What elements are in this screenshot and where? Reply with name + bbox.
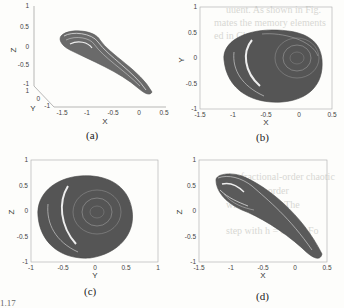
svg-text:0.5: 0.5 [20, 23, 29, 30]
svg-text:0.5: 0.5 [322, 264, 331, 271]
svg-text:-1.5: -1.5 [56, 109, 68, 116]
panel-caption-d: (d) [256, 290, 269, 302]
svg-text:0: 0 [36, 95, 40, 102]
svg-text:-1.5: -1.5 [194, 111, 206, 118]
svg-text:0: 0 [93, 264, 97, 271]
svg-text:Z: Z [175, 209, 184, 214]
svg-text:-1.5: -1.5 [193, 264, 205, 271]
svg-text:0: 0 [293, 264, 297, 271]
svg-text:1: 1 [25, 87, 29, 94]
panel-caption-c: (c) [84, 285, 96, 297]
svg-text:0.5: 0.5 [188, 29, 197, 36]
svg-text:-0.5: -0.5 [107, 109, 119, 116]
svg-text:0: 0 [192, 207, 196, 214]
svg-text:-0.5: -0.5 [185, 233, 197, 240]
panel-caption-b: (b) [256, 131, 269, 143]
figure-panel-c: 1 0.5 0 -0.5 -1 -1 -0.5 0 0.5 1 Z Y (c) [0, 154, 172, 308]
svg-text:1: 1 [25, 2, 29, 9]
svg-text:-1: -1 [23, 80, 29, 87]
svg-text:Z: Z [9, 47, 18, 52]
svg-text:-0.5: -0.5 [260, 111, 272, 118]
svg-text:-1: -1 [44, 102, 50, 109]
svg-text:Y: Y [92, 271, 98, 280]
svg-text:-0.5: -0.5 [186, 80, 198, 87]
figure-panel-b: 1 0.5 0 -0.5 -1 -1.5 -1 -0.5 0 0.5 Y X (… [172, 0, 344, 154]
figure-number-fragment: 1.17 [0, 298, 16, 308]
panel-caption-a: (a) [86, 129, 98, 141]
svg-text:-1: -1 [228, 264, 234, 271]
svg-text:1: 1 [192, 156, 196, 163]
svg-text:0.5: 0.5 [19, 182, 28, 189]
svg-text:Z: Z [7, 209, 16, 214]
svg-text:Y: Y [177, 57, 186, 63]
svg-text:-1: -1 [230, 111, 236, 118]
attractor-xz-plot: 1 0.5 0 -0.5 -1 -1.5 -1 -0.5 0 0.5 Z X [172, 154, 344, 308]
svg-text:0: 0 [297, 111, 301, 118]
svg-text:0: 0 [137, 109, 141, 116]
svg-text:0: 0 [193, 54, 197, 61]
svg-text:0.5: 0.5 [159, 109, 168, 116]
svg-text:-1: -1 [84, 109, 90, 116]
svg-text:X: X [263, 118, 269, 127]
svg-text:0: 0 [25, 43, 29, 50]
figure-panel-d: 1 0.5 0 -0.5 -1 -1.5 -1 -0.5 0 0.5 Z X (… [172, 154, 344, 308]
svg-text:0.5: 0.5 [187, 182, 196, 189]
svg-text:-0.5: -0.5 [17, 233, 29, 240]
svg-text:0.5: 0.5 [121, 264, 130, 271]
svg-text:1: 1 [156, 264, 160, 271]
svg-text:Y: Y [30, 104, 36, 113]
svg-text:0: 0 [24, 207, 28, 214]
svg-text:-0.5: -0.5 [257, 264, 269, 271]
svg-text:0.5: 0.5 [327, 111, 336, 118]
figure-panel-a: 1 0.5 0 -0.5 -1 1 0 -1 -1.5 -1 -0.5 0 0.… [0, 0, 172, 154]
svg-text:X: X [102, 117, 108, 126]
svg-text:-0.5: -0.5 [18, 61, 30, 68]
svg-text:1: 1 [24, 156, 28, 163]
svg-text:-0.5: -0.5 [57, 264, 69, 271]
svg-text:1: 1 [193, 3, 197, 10]
svg-text:-1: -1 [28, 264, 34, 271]
svg-text:X: X [260, 271, 266, 280]
